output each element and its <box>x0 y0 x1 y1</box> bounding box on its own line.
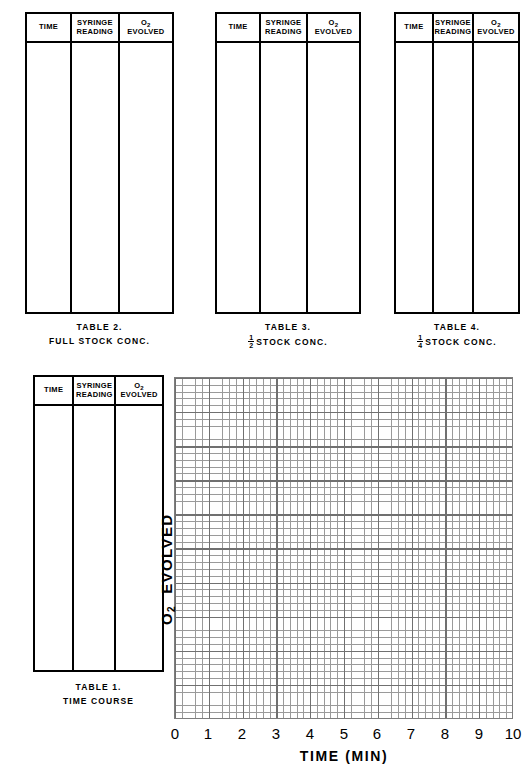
caption-table-4: TABLE 4. 14STOCK CONC. <box>387 320 527 350</box>
syringe-label-line2: READING <box>265 28 302 36</box>
column-header-syringe-reading: SYRINGE READING <box>72 14 120 41</box>
y-axis-title-base: O <box>158 612 175 625</box>
table-header-row: TIME SYRINGE READING O2 EVOLVED <box>27 14 172 43</box>
x-axis-title: TIME (MIN) <box>214 748 474 764</box>
o2-label-line2: EVOLVED <box>120 391 157 399</box>
column-header-time-label: TIME <box>44 386 63 394</box>
data-table-table-1: TIME SYRINGE READING O2 EVOLVED <box>33 375 164 672</box>
table-cell-syringe-blank[interactable] <box>74 406 116 670</box>
table-cell-o2-blank[interactable] <box>116 406 162 670</box>
x-tick-8: 8 <box>441 725 449 742</box>
caption-table-1: TABLE 1. TIME COURSE <box>33 680 164 708</box>
table-header-row: TIME SYRINGE READING O2 EVOLVED <box>35 377 162 406</box>
syringe-label-line2: READING <box>77 28 114 36</box>
o2-label-line2: EVOLVED <box>315 28 352 36</box>
table-body-blank[interactable] <box>396 43 518 312</box>
caption-table-4-line2: 14STOCK CONC. <box>387 334 527 350</box>
column-header-time: TIME <box>27 14 72 41</box>
column-header-syringe-reading: SYRINGE READING <box>74 377 116 404</box>
table-cell-o2-blank[interactable] <box>474 43 518 312</box>
x-tick-7: 7 <box>407 725 415 742</box>
caption-table-3-line1: TABLE 3. <box>265 322 311 332</box>
caption-table-1-line2: TIME COURSE <box>33 694 164 708</box>
y-axis-title: O2 EVOLVED <box>158 513 175 625</box>
table-cell-syringe-blank[interactable] <box>261 43 308 312</box>
table-cell-o2-blank[interactable] <box>308 43 359 312</box>
table-cell-syringe-blank[interactable] <box>434 43 474 312</box>
column-header-time: TIME <box>217 14 261 41</box>
o2-label-line2: EVOLVED <box>127 28 164 36</box>
fraction-one-quarter: 14 <box>417 334 423 350</box>
y-axis-title-sub: 2 <box>166 605 177 612</box>
caption-table-3-line2-text: STOCK CONC. <box>256 337 327 347</box>
table-cell-o2-blank[interactable] <box>120 43 172 312</box>
column-header-time: TIME <box>396 14 434 41</box>
fraction-one-half: 12 <box>248 334 254 350</box>
table-body-blank[interactable] <box>217 43 359 312</box>
caption-table-1-line1: TABLE 1. <box>76 682 122 692</box>
x-tick-9: 9 <box>475 725 483 742</box>
column-header-o2-evolved: O2 EVOLVED <box>120 14 172 41</box>
y-axis-title-rest: EVOLVED <box>158 513 175 593</box>
o2-label-line2: EVOLVED <box>477 28 514 36</box>
column-header-o2-evolved: O2 EVOLVED <box>116 377 162 404</box>
column-header-time-label: TIME <box>404 23 423 31</box>
x-tick-3: 3 <box>272 725 280 742</box>
syringe-label-line2: READING <box>435 28 472 36</box>
x-tick-2: 2 <box>238 725 246 742</box>
x-tick-5: 5 <box>340 725 348 742</box>
caption-table-2-line1: TABLE 2. <box>77 322 123 332</box>
caption-table-3-line2: 12STOCK CONC. <box>215 334 361 350</box>
table-body-blank[interactable] <box>35 406 162 670</box>
graph-grid-area[interactable] <box>174 377 513 719</box>
table-cell-time-blank[interactable] <box>35 406 74 670</box>
graph-paper-chart <box>174 377 513 719</box>
caption-table-4-line1: TABLE 4. <box>434 322 480 332</box>
caption-table-2-line2: FULL STOCK CONC. <box>25 334 174 348</box>
data-table-table-3: TIME SYRINGE READING O2 EVOLVED <box>215 12 361 314</box>
caption-table-4-line2-text: STOCK CONC. <box>425 337 496 347</box>
column-header-syringe-reading: SYRINGE READING <box>261 14 308 41</box>
table-body-blank[interactable] <box>27 43 172 312</box>
x-tick-10: 10 <box>505 725 522 742</box>
caption-table-3: TABLE 3. 12STOCK CONC. <box>215 320 361 350</box>
caption-table-2: TABLE 2. FULL STOCK CONC. <box>25 320 174 348</box>
x-tick-0: 0 <box>171 725 179 742</box>
data-table-table-2: TIME SYRINGE READING O2 EVOLVED <box>25 12 174 314</box>
data-table-table-4: TIME SYRINGE READING O2 EVOLVED <box>394 12 520 314</box>
table-cell-time-blank[interactable] <box>217 43 261 312</box>
table-cell-syringe-blank[interactable] <box>72 43 120 312</box>
column-header-time: TIME <box>35 377 74 404</box>
column-header-time-label: TIME <box>39 23 58 31</box>
table-header-row: TIME SYRINGE READING O2 EVOLVED <box>217 14 359 43</box>
x-tick-4: 4 <box>306 725 314 742</box>
column-header-syringe-reading: SYRINGE READING <box>434 14 474 41</box>
x-tick-1: 1 <box>204 725 212 742</box>
syringe-label-line2: READING <box>76 391 113 399</box>
table-cell-time-blank[interactable] <box>27 43 72 312</box>
x-tick-6: 6 <box>373 725 381 742</box>
table-header-row: TIME SYRINGE READING O2 EVOLVED <box>396 14 518 43</box>
column-header-o2-evolved: O2 EVOLVED <box>474 14 518 41</box>
column-header-o2-evolved: O2 EVOLVED <box>308 14 359 41</box>
column-header-time-label: TIME <box>228 23 247 31</box>
table-cell-time-blank[interactable] <box>396 43 434 312</box>
